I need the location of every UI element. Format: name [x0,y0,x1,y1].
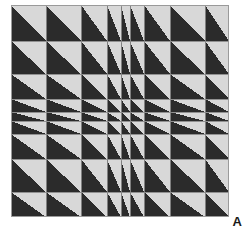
panel-label: A [232,215,242,228]
pattern-svg [11,5,229,217]
triangle-tiling-pattern [11,5,229,217]
figure-panel: A [0,0,248,232]
